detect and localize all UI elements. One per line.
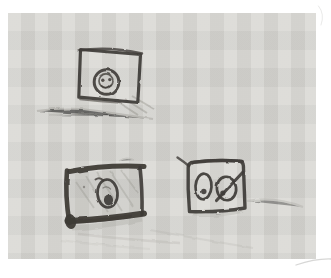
egg-dark-pit <box>104 195 113 206</box>
top-picture-frame <box>79 49 143 103</box>
small-tick-mark <box>83 186 85 188</box>
left-egg <box>195 173 213 200</box>
ground-line-right-of-bottom-right-frame <box>247 199 303 207</box>
scan-artifacts <box>296 6 331 265</box>
bottom-right-margin-curve <box>296 259 331 265</box>
faint-scribble-between-frames <box>119 158 134 161</box>
left-eye-dot <box>101 79 104 82</box>
smudge-streak-1 <box>78 234 180 243</box>
frame-interior-shading <box>69 168 141 218</box>
right-eye-dot <box>108 78 111 81</box>
smudge-streak-3 <box>60 240 150 249</box>
sketch-drawing <box>0 0 331 278</box>
bl-frame-right-edge <box>140 168 142 215</box>
right-egg <box>215 172 242 201</box>
smiley-face <box>94 70 119 95</box>
br-frame-tail-stroke <box>178 158 190 167</box>
hatch-shading-top-frame <box>118 96 154 115</box>
left-egg-dot <box>201 189 206 194</box>
smile-curve <box>102 85 112 87</box>
sketch-scan <box>0 0 331 278</box>
bottom-right-picture-frame <box>178 158 246 212</box>
left-egg-outline <box>195 173 213 200</box>
top-right-margin-tick <box>319 6 323 25</box>
smudge-streak-2 <box>150 230 253 248</box>
